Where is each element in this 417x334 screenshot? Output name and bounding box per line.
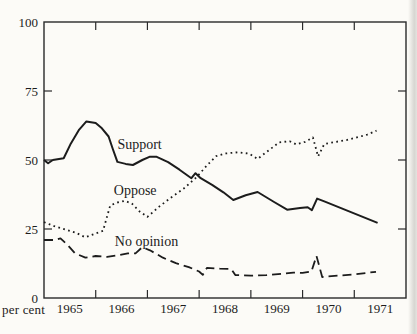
y-tick-label-100: 100 [19,15,39,30]
chart-figure: 02550751001965196619671968196919701971Su… [0,0,417,334]
y-axis-unit-label: per cent [2,302,45,318]
series-label-oppose: Oppose [114,183,157,198]
y-axis-labels: 0255075100 [19,15,39,306]
y-tick-label-75: 75 [25,84,38,99]
series-line-support [44,121,378,222]
y-tick-label-25: 25 [25,222,38,237]
x-tick-label-1968: 1968 [212,301,238,316]
series-line-no-opinion [44,238,376,277]
x-tick-label-1966: 1966 [109,301,136,316]
opinion-trend-chart: 02550751001965196619671968196919701971Su… [0,0,417,334]
x-axis-labels: 1965196619671968196919701971 [57,301,393,316]
x-tick-label-1970: 1970 [315,301,341,316]
x-tick-label-1971: 1971 [367,301,393,316]
series-label-support: Support [117,137,161,152]
x-tick-label-1967: 1967 [160,301,187,316]
x-tick-label-1965: 1965 [57,301,83,316]
y-tick-label-50: 50 [25,153,38,168]
series-label-no-opinion: No opinion [115,234,178,249]
x-tick-label-1969: 1969 [264,301,290,316]
